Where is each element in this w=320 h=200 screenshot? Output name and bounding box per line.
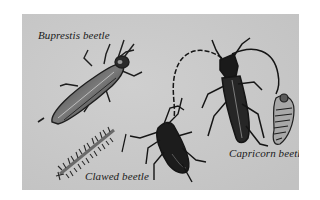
beetle-illustration-plate: Buprestis beetle Clawed beetle Capricorn… bbox=[22, 14, 299, 190]
caption-clawed-beetle: Clawed beetle bbox=[85, 170, 149, 182]
caption-buprestis-beetle: Buprestis beetle bbox=[38, 29, 110, 41]
caption-capricorn-beetle: Capricorn beetle bbox=[229, 147, 299, 159]
